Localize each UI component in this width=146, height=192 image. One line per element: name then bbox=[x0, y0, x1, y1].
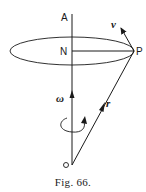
velocity-vector-v bbox=[121, 28, 134, 51]
rotation-arrow-icon bbox=[61, 118, 85, 132]
origin-marker bbox=[64, 163, 69, 168]
rotation-diagram: A N P v ω r bbox=[0, 0, 146, 192]
r-arrowhead bbox=[99, 102, 105, 112]
label-n: N bbox=[60, 46, 67, 57]
label-a: A bbox=[61, 12, 68, 23]
label-v: v bbox=[111, 18, 116, 30]
rotation-arrowhead bbox=[81, 116, 87, 124]
label-omega: ω bbox=[56, 92, 64, 104]
label-p: P bbox=[136, 46, 143, 57]
label-r: r bbox=[106, 97, 111, 109]
omega-arrowhead bbox=[70, 90, 75, 98]
figure-caption: Fig. 66. bbox=[0, 176, 146, 188]
